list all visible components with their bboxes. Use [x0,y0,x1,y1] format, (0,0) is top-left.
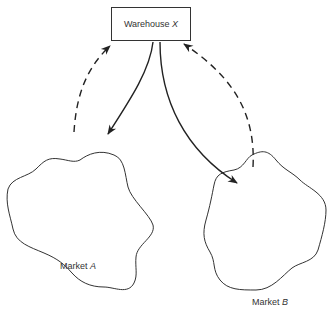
market-a-name: Market [60,261,88,271]
market-b-label: Market B [252,297,288,307]
warehouse-box: Warehouse X [111,7,191,41]
market-b-name: Market [252,297,280,307]
market-a-id: A [90,261,96,271]
market-a-label: Market A [60,261,96,271]
warehouse-id: X [172,19,178,29]
flow-warehouse-to-market-b [160,42,237,183]
market-b-id: B [282,297,288,307]
flow-warehouse-to-market-a [108,42,153,134]
flow-market-a-to-warehouse [74,46,110,132]
warehouse-label: Warehouse [124,19,170,29]
diagram-canvas [0,0,332,310]
flow-market-b-to-warehouse [184,44,253,167]
